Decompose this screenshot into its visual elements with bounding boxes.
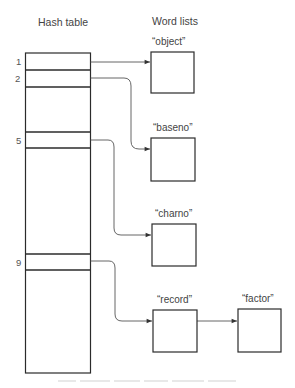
arrow-slot-9 (91, 261, 153, 321)
hash-table-diagram: Hash table Word lists 1 2 5 9 “object” “… (0, 0, 295, 388)
arrow-slot-5 (91, 140, 152, 235)
node-baseno (151, 138, 195, 181)
node-charno (152, 224, 196, 266)
node-object (151, 52, 194, 93)
hash-table (26, 53, 91, 373)
slot-index-1: 1 (16, 56, 21, 67)
word-charno: “charno” (155, 208, 192, 219)
slot-index-5: 5 (16, 135, 21, 146)
node-factor (238, 309, 281, 352)
node-record (153, 310, 197, 352)
hash-table-title: Hash table (38, 16, 88, 28)
word-object: “object” (152, 36, 185, 47)
word-lists-title: Word lists (152, 15, 198, 27)
arrow-slot-2 (91, 78, 151, 149)
slot-index-9: 9 (16, 257, 21, 268)
slot-index-2: 2 (15, 73, 20, 84)
word-baseno: “baseno” (153, 122, 192, 133)
word-factor: “factor” (242, 293, 274, 304)
word-record: “record” (157, 294, 192, 305)
